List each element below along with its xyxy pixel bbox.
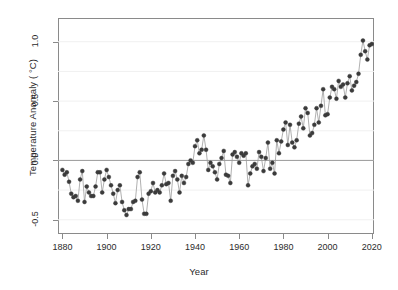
y-tick-label: 1.0 — [30, 26, 40, 56]
temperature-anomaly-chart: Temperature Anomaly ( °C) Year -0.50.00.… — [0, 0, 398, 290]
x-tick-label: 1940 — [175, 242, 215, 252]
x-tick-label: 2000 — [308, 242, 348, 252]
x-tick-mark — [283, 234, 284, 239]
x-tick-mark — [328, 234, 329, 239]
y-tick-label: 0.5 — [30, 85, 40, 115]
x-tick-label: 1880 — [42, 242, 82, 252]
x-tick-mark — [239, 234, 240, 239]
x-tick-label: 1920 — [131, 242, 171, 252]
y-tick-mark — [53, 160, 58, 161]
x-tick-mark — [195, 234, 196, 239]
plot-area — [58, 18, 374, 234]
gridlines — [58, 42, 374, 220]
x-tick-label: 1980 — [263, 242, 303, 252]
x-tick-label: 1960 — [219, 242, 259, 252]
x-tick-mark — [107, 234, 108, 239]
x-tick-mark — [151, 234, 152, 239]
x-tick-mark — [372, 234, 373, 239]
x-tick-label: 2020 — [352, 242, 392, 252]
x-tick-mark — [62, 234, 63, 239]
y-tick-mark — [53, 220, 58, 221]
y-tick-mark — [53, 42, 58, 43]
series-polyline — [62, 41, 371, 215]
y-tick-mark — [53, 101, 58, 102]
y-tick-label: 0.0 — [30, 144, 40, 174]
x-axis-title: Year — [0, 266, 398, 277]
x-tick-label: 1900 — [87, 242, 127, 252]
y-tick-label: -0.5 — [30, 204, 40, 234]
